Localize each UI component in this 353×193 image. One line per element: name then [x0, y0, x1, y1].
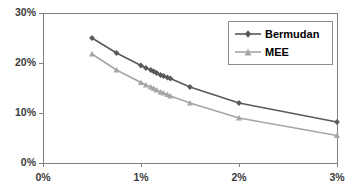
- legend-marker-bermudan: [233, 27, 263, 41]
- x-tick-label: 0%: [23, 171, 63, 183]
- chart-legend: Bermudan MEE: [228, 21, 333, 65]
- y-tick-label: 20%: [0, 56, 36, 68]
- y-tick-label: 10%: [0, 106, 36, 118]
- legend-item-bermudan: Bermudan: [233, 25, 328, 43]
- legend-item-mee: MEE: [233, 43, 328, 61]
- legend-label-bermudan: Bermudan: [265, 28, 319, 40]
- chart-container: 0%10%20%30% 0%1%2%3% Bermudan MEE: [0, 0, 353, 193]
- x-tick-label: 2%: [219, 171, 259, 183]
- x-tick-label: 1%: [121, 171, 161, 183]
- x-tick-label: 3%: [317, 171, 353, 183]
- y-tick-label: 30%: [0, 6, 36, 18]
- y-tick-label: 0%: [0, 156, 36, 168]
- legend-label-mee: MEE: [265, 46, 289, 58]
- legend-marker-mee: [233, 45, 263, 59]
